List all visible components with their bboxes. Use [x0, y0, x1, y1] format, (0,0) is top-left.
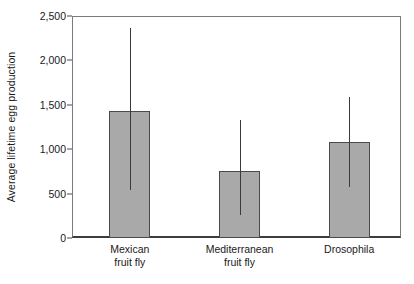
x-axis-category-label-line: fruit fly	[206, 256, 274, 269]
y-axis-tick-label: 2,000	[20, 54, 66, 66]
x-axis-category-label: Mediterraneanfruit fly	[206, 243, 274, 269]
x-axis-category-label: Mexicanfruit fly	[110, 243, 149, 269]
y-axis-tick-label: 0	[20, 232, 66, 244]
error-bar	[240, 120, 241, 215]
y-axis-tick-label: 1,500	[20, 99, 66, 111]
plot-area	[72, 16, 401, 238]
error-bar	[130, 28, 131, 191]
error-bar	[349, 97, 350, 187]
y-axis-tick-label: 1,000	[20, 143, 66, 155]
x-axis-category-label: Drosophila	[324, 243, 374, 256]
x-axis-category-label-line: Mediterranean	[206, 243, 274, 256]
y-axis-tick-labels: 05001,0001,5002,0002,500	[18, 0, 66, 284]
y-axis-tick-label: 2,500	[20, 10, 66, 22]
x-axis-category-label-line: Mexican	[110, 243, 149, 256]
chart-figure: Average lifetime egg production 05001,00…	[0, 0, 414, 284]
x-axis-category-label-line: Drosophila	[324, 243, 374, 256]
y-axis-tick-label: 500	[20, 188, 66, 200]
x-axis-category-label-line: fruit fly	[110, 256, 149, 269]
x-axis-category-labels: Mexicanfruit flyMediterraneanfruit flyDr…	[72, 243, 401, 283]
